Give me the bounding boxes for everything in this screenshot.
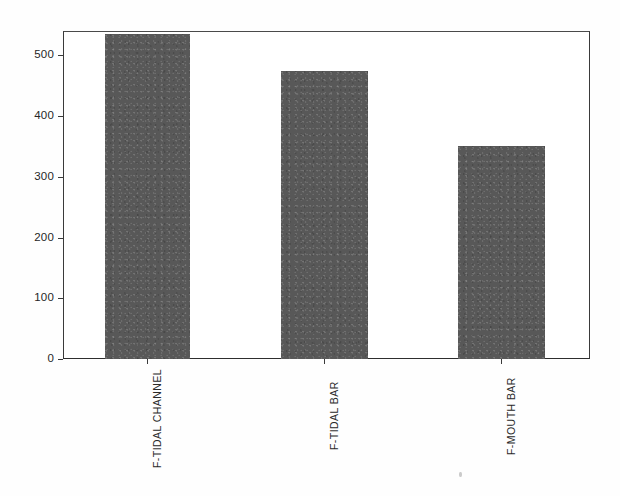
y-tick-label-300: 300 (34, 171, 54, 183)
y-tick-label-100: 100 (34, 292, 54, 304)
scan-artifact-speck (459, 472, 462, 477)
y-tick-mark-200 (58, 238, 63, 239)
bar-chart-figure: 0 100 200 300 400 500 F-TIDAL CHANNEL F-… (0, 0, 620, 496)
x-category-label-1: F-TIDAL BAR (329, 381, 340, 450)
bar-scan-texture (105, 34, 190, 359)
y-tick-mark-300 (58, 177, 63, 178)
y-tick-label-500: 500 (34, 49, 54, 61)
y-tick-label-400: 400 (34, 110, 54, 122)
x-tick-mark-2 (501, 359, 502, 364)
y-tick-label-0: 0 (47, 353, 54, 365)
y-tick-mark-100 (58, 298, 63, 299)
bar-f-tidal-bar (281, 71, 368, 359)
bar-scan-texture (458, 146, 545, 359)
bar-scan-texture (281, 71, 368, 359)
bar-f-tidal-channel (105, 34, 190, 359)
x-category-label-0: F-TIDAL CHANNEL (152, 369, 163, 468)
x-tick-mark-0 (147, 359, 148, 364)
y-tick-mark-500 (58, 55, 63, 56)
x-category-label-2: F-MOUTH BAR (506, 377, 517, 455)
y-axis-tick-labels: 0 100 200 300 400 500 (0, 0, 54, 496)
bar-f-mouth-bar (458, 146, 545, 359)
x-tick-mark-1 (324, 359, 325, 364)
y-tick-mark-400 (58, 116, 63, 117)
y-tick-mark-0 (58, 359, 63, 360)
y-tick-label-200: 200 (34, 232, 54, 244)
